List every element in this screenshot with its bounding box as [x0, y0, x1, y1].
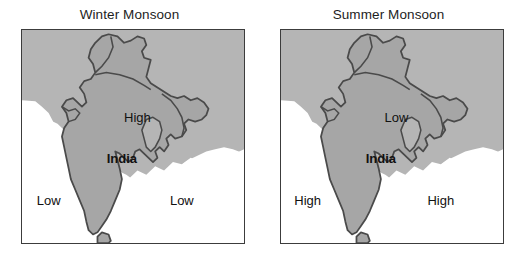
- pressure-label-southeast-winter: Low: [170, 193, 194, 208]
- panel-title-winter: Winter Monsoon: [0, 6, 259, 24]
- india-map-summer: [281, 30, 503, 243]
- map-frame-winter: High India Low Low: [21, 29, 245, 244]
- map-frame-summer: Low India High High: [280, 29, 504, 244]
- country-label-winter: India: [107, 150, 137, 165]
- panel-title-summer: Summer Monsoon: [259, 6, 518, 24]
- pressure-label-north-winter: High: [124, 110, 151, 125]
- monsoon-pressure-figure: Winter Monsoon: [0, 0, 518, 261]
- india-map-winter: [22, 30, 244, 243]
- panel-summer-monsoon: Summer Monsoon Low India High High: [259, 0, 518, 261]
- sri-lanka-island: [356, 232, 369, 243]
- pressure-label-southeast-summer: High: [427, 193, 454, 208]
- arabian-sea-water: [281, 100, 314, 243]
- panel-winter-monsoon: Winter Monsoon: [0, 0, 259, 261]
- country-label-summer: India: [366, 150, 396, 165]
- pressure-label-southwest-winter: Low: [37, 193, 61, 208]
- pressure-label-southwest-summer: High: [294, 193, 321, 208]
- sri-lanka-island: [97, 232, 110, 243]
- arabian-sea-water: [22, 100, 55, 243]
- pressure-label-north-summer: Low: [385, 110, 409, 125]
